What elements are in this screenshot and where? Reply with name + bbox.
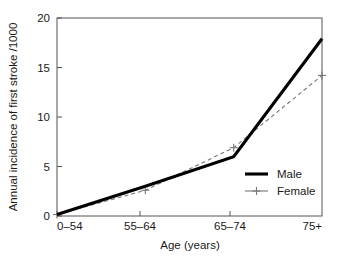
x-tick-label-75-plus: 75+	[302, 220, 322, 232]
legend-label-female: Female	[277, 185, 315, 197]
chart-figure: 20 15 10 5 0 Annual incidence of first s…	[0, 0, 343, 266]
y-tick-label-20: 20	[37, 12, 50, 24]
x-tick-label-0-54: 0–54	[57, 220, 83, 232]
y-tick-label-0: 0	[44, 210, 50, 222]
x-tick-label-65-74: 65–74	[214, 220, 247, 232]
y-axis-title: Annual incidence of first stroke /1000	[7, 23, 19, 212]
x-axis-title: Age (years)	[160, 239, 220, 251]
legend-label-male: Male	[277, 168, 302, 180]
x-tick-label-55-64: 55–64	[124, 220, 157, 232]
stroke-incidence-line-chart: 20 15 10 5 0 Annual incidence of first s…	[0, 0, 343, 266]
y-tick-label-15: 15	[37, 62, 50, 74]
y-tick-label-10: 10	[37, 111, 50, 123]
y-tick-label-5: 5	[44, 161, 50, 173]
